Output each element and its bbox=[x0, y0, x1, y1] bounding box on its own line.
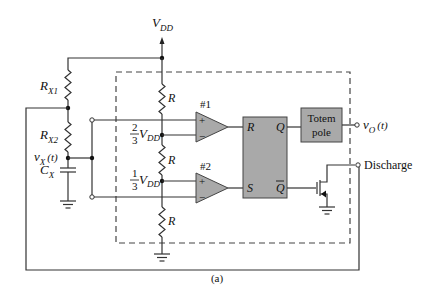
svg-text:Q: Q bbox=[276, 120, 285, 134]
svg-text:#2: #2 bbox=[200, 160, 211, 172]
svg-text:+: + bbox=[199, 175, 205, 187]
vdd-supply: VDD bbox=[152, 15, 173, 58]
totem-pole-block: Totem pole bbox=[301, 108, 342, 142]
svg-text:R: R bbox=[167, 153, 176, 167]
rx1-label: RX1 bbox=[39, 78, 58, 96]
svg-text:Q: Q bbox=[276, 181, 285, 195]
ic-boundary bbox=[116, 72, 350, 243]
rx2-label: RX2 bbox=[39, 127, 58, 145]
svg-text:VDD: VDD bbox=[139, 172, 160, 189]
discharge-terminal bbox=[356, 163, 360, 167]
resistor-r2 bbox=[159, 145, 165, 175]
svg-text:+: + bbox=[199, 114, 205, 126]
svg-text:R: R bbox=[246, 120, 255, 134]
vdd-label: VDD bbox=[152, 15, 173, 33]
comparator-1: + − #1 bbox=[196, 98, 228, 142]
svg-text:−: − bbox=[199, 191, 205, 203]
discharge-label: Discharge bbox=[364, 158, 412, 172]
ground-icon bbox=[154, 254, 170, 261]
svg-text:−: − bbox=[199, 130, 205, 142]
discharge-mosfet bbox=[317, 165, 355, 214]
resistor-r3 bbox=[159, 207, 165, 237]
resistor-r1 bbox=[159, 84, 165, 114]
svg-text:R: R bbox=[167, 214, 176, 228]
figure-caption: (a) bbox=[211, 272, 224, 285]
capacitor-cx bbox=[60, 168, 76, 172]
resistor-rx1 bbox=[65, 70, 71, 100]
svg-text:VDD: VDD bbox=[139, 126, 160, 143]
svg-text:R: R bbox=[167, 91, 176, 105]
output-terminal bbox=[355, 123, 359, 127]
svg-text:#1: #1 bbox=[200, 98, 211, 110]
trigger-terminal bbox=[90, 195, 94, 199]
svg-text:1: 1 bbox=[132, 167, 138, 179]
sr-latch: R Q S Q bbox=[243, 117, 287, 198]
svg-text:Totem: Totem bbox=[308, 112, 336, 124]
threshold-terminal bbox=[90, 118, 94, 122]
svg-text:2: 2 bbox=[132, 121, 138, 133]
output-label: vO(t) bbox=[363, 117, 388, 135]
top-wire bbox=[68, 58, 162, 70]
one-third-vdd-label: 1 3 VDD bbox=[130, 167, 160, 192]
voltage-divider: R R R bbox=[154, 58, 176, 261]
two-thirds-vdd-label: 2 3 VDD bbox=[130, 121, 160, 146]
svg-text:S: S bbox=[247, 181, 253, 195]
timer-555-circuit: VDD R R R 2 3 VDD 1 3 VDD bbox=[0, 0, 434, 304]
svg-text:pole: pole bbox=[312, 126, 331, 138]
comparator-2: + − #2 bbox=[196, 160, 228, 203]
svg-text:3: 3 bbox=[132, 134, 138, 146]
svg-text:3: 3 bbox=[132, 180, 138, 192]
resistor-rx2 bbox=[65, 122, 71, 152]
ground-icon bbox=[319, 207, 335, 214]
ground-icon bbox=[60, 201, 76, 208]
external-timing-network: RX1 RX2 CX vX(t) bbox=[34, 70, 76, 208]
